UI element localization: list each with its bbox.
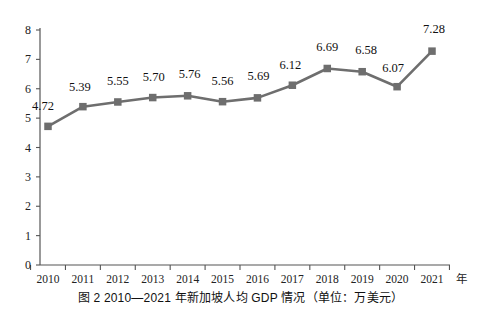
y-axis-tick-label: 7	[13, 53, 31, 65]
line-chart-canvas	[0, 0, 481, 285]
figure-container: 0123456782010201120122013201420152016201…	[0, 0, 481, 315]
y-axis-tick-label: 2	[13, 200, 31, 212]
data-point-value-label: 4.72	[26, 100, 60, 113]
x-axis-unit-label: 年	[456, 273, 467, 285]
data-point-value-label: 6.07	[376, 62, 410, 75]
y-axis-tick-label: 5	[13, 112, 31, 124]
data-point-marker	[149, 94, 157, 102]
data-point-value-label: 6.58	[349, 44, 383, 57]
chart-plot-area: 0123456782010201120122013201420152016201…	[0, 0, 481, 285]
y-axis-tick-label: 4	[13, 142, 31, 154]
data-point-value-label: 5.69	[241, 70, 275, 83]
data-point-value-label: 5.55	[101, 75, 135, 88]
y-axis-tick-label: 6	[13, 83, 31, 95]
data-point-value-label: 5.56	[206, 75, 240, 88]
data-point-marker	[184, 92, 192, 100]
data-point-value-label: 7.28	[417, 23, 451, 36]
data-point-value-label: 6.69	[310, 41, 344, 54]
y-axis-tick-label: 3	[13, 171, 31, 183]
data-point-value-label: 5.76	[173, 68, 207, 81]
data-point-marker	[219, 98, 227, 106]
data-point-marker	[428, 47, 436, 55]
y-axis-tick-label: 8	[13, 24, 31, 36]
data-point-value-label: 6.12	[273, 59, 307, 72]
data-point-marker	[114, 98, 122, 106]
figure-caption: 图 2 2010—2021 年新加坡人均 GDP 情况（单位：万美元）	[0, 288, 481, 305]
data-point-value-label: 5.39	[63, 81, 97, 94]
data-point-value-label: 5.70	[137, 71, 171, 84]
x-axis-tick-label: 2021	[412, 273, 452, 285]
data-point-marker	[44, 123, 52, 131]
y-axis-tick-label: 1	[13, 230, 31, 242]
data-point-marker	[358, 68, 366, 76]
y-axis-tick-label: 0	[13, 259, 31, 271]
data-point-marker	[254, 94, 261, 102]
data-point-marker	[324, 65, 332, 73]
data-point-marker	[393, 83, 401, 91]
data-point-marker	[79, 103, 87, 111]
data-series-line	[48, 51, 432, 126]
data-point-marker	[289, 81, 297, 89]
